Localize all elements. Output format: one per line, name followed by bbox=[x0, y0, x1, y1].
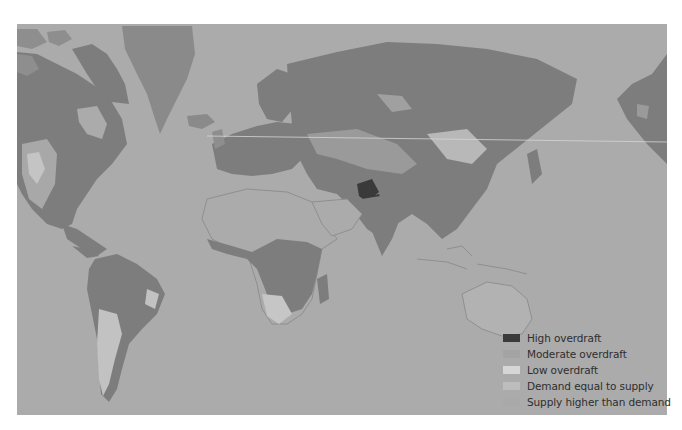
legend-label: Demand equal to supply bbox=[527, 380, 654, 392]
supply-higher-swatch bbox=[503, 398, 520, 406]
low-overdraft-swatch bbox=[503, 366, 520, 374]
legend-label: High overdraft bbox=[527, 332, 601, 344]
legend-item-high-overdraft: High overdraft bbox=[503, 330, 667, 346]
moderate-overdraft-swatch bbox=[503, 350, 520, 358]
map-legend: High overdraft Moderate overdraft Low ov… bbox=[503, 330, 667, 410]
legend-label: Moderate overdraft bbox=[527, 348, 627, 360]
demand-equal-supply-swatch bbox=[503, 382, 520, 390]
legend-label: Low overdraft bbox=[527, 364, 598, 376]
legend-label: Supply higher than demand bbox=[527, 396, 671, 408]
legend-item-low-overdraft: Low overdraft bbox=[503, 362, 667, 378]
high-overdraft-swatch bbox=[503, 334, 520, 342]
legend-item-demand-equal-supply: Demand equal to supply bbox=[503, 378, 667, 394]
legend-item-supply-higher: Supply higher than demand bbox=[503, 394, 667, 410]
legend-item-moderate-overdraft: Moderate overdraft bbox=[503, 346, 667, 362]
